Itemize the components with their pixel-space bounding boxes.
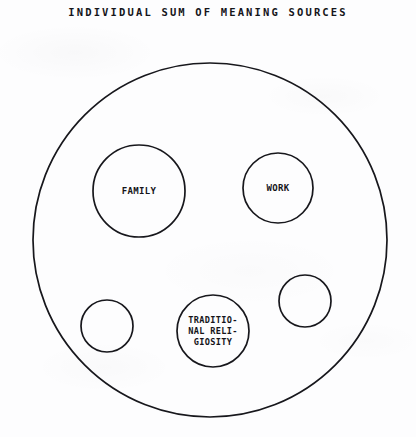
meaning-sources-venn-diagram: FAMILYWORKTRADITIO-NAL RELI-GIOSITY [0, 0, 416, 437]
label-work: WORK [266, 183, 289, 193]
node-traditional-religiosity[interactable]: TRADITIO-NAL RELI-GIOSITY [177, 295, 249, 367]
node-unlabeled-left[interactable] [81, 300, 133, 352]
diagram-title: INDIVIDUAL SUM OF MEANING SOURCES [0, 6, 416, 18]
circle-unlabeled-left [81, 300, 133, 352]
label-family: FAMILY [122, 186, 157, 196]
node-unlabeled-right[interactable] [279, 275, 331, 327]
inner-circle-group: FAMILYWORKTRADITIO-NAL RELI-GIOSITY [81, 145, 331, 367]
circle-unlabeled-right [279, 275, 331, 327]
node-family[interactable]: FAMILY [93, 145, 185, 237]
node-work[interactable]: WORK [243, 153, 313, 223]
outer-circle-individual-sum [33, 63, 387, 417]
diagram-figure: INDIVIDUAL SUM OF MEANING SOURCES FAMILY… [0, 0, 416, 437]
label-traditional-religiosity: TRADITIO-NAL RELI-GIOSITY [188, 315, 238, 347]
